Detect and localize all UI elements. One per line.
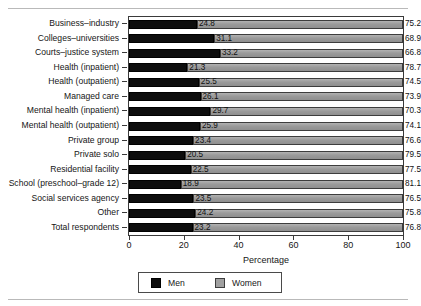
- bar-segment-women: [214, 34, 403, 43]
- bar-segment-men: [129, 136, 193, 145]
- category-label: Colleges–universities: [38, 34, 119, 43]
- bar-segment-women: [195, 209, 403, 218]
- bar-row: 25.974.1: [129, 122, 403, 131]
- bar-row: 26.173.9: [129, 92, 403, 101]
- bar-value-label-women: 75.2: [405, 19, 421, 29]
- bar-segment-men: [129, 151, 185, 160]
- bar-segment-women: [201, 92, 403, 101]
- bar-row: 24.875.2: [129, 20, 403, 29]
- category-label: Total respondents: [51, 223, 119, 232]
- bar-segment-women: [200, 122, 403, 131]
- bar-segment-women: [197, 20, 403, 29]
- bar-value-label-women: 76.5: [405, 194, 421, 204]
- bar-segment-women: [199, 78, 403, 87]
- bar-value-label-women: 76.6: [405, 136, 421, 146]
- category-tick-mark: [122, 96, 127, 97]
- bar-value-label-men: 24.8: [199, 19, 215, 29]
- bar-value-label-men: 23.4: [195, 136, 211, 146]
- category-label: Courts–justice system: [35, 48, 119, 57]
- bar-segment-men: [129, 63, 187, 72]
- value-tick-label: 80: [343, 241, 353, 250]
- category-tick-mark: [122, 81, 127, 82]
- bar-value-label-women: 78.7: [405, 63, 421, 73]
- category-tick-mark: [122, 183, 127, 184]
- category-tick-mark: [122, 110, 127, 111]
- legend-item-men: Men: [151, 277, 185, 289]
- category-label: Mental health (inpatient): [27, 106, 119, 115]
- bar-segment-women: [220, 49, 403, 58]
- bar-segment-women: [193, 136, 403, 145]
- bar-row: 23.576.5: [129, 194, 403, 203]
- bar-value-label-men: 33.2: [222, 48, 238, 58]
- value-tick-label: 0: [126, 241, 131, 250]
- value-tick-label: 100: [395, 241, 410, 250]
- category-label: School (preschool–grade 12): [9, 179, 119, 188]
- category-tick-mark: [122, 227, 127, 228]
- bar-row: 22.577.5: [129, 165, 403, 174]
- bar-segment-men: [129, 209, 195, 218]
- bar-segment-women: [185, 151, 403, 160]
- category-tick-mark: [122, 169, 127, 170]
- bar-segment-men: [129, 122, 200, 131]
- bar-segment-women: [191, 165, 403, 174]
- bar-segment-men: [129, 78, 199, 87]
- legend-swatch-men-icon: [151, 278, 161, 288]
- bar-value-label-men: 23.5: [195, 194, 211, 204]
- bar-segment-men: [129, 92, 201, 101]
- bar-row: 33.266.8: [129, 49, 403, 58]
- bar-value-label-men: 21.3: [189, 63, 205, 73]
- bar-row: 21.378.7: [129, 63, 403, 72]
- bar-segment-women: [187, 63, 403, 72]
- category-label: Health (inpatient): [54, 63, 119, 72]
- category-tick-mark: [122, 52, 127, 53]
- bar-segment-men: [129, 180, 181, 189]
- bar-row: 31.168.9: [129, 34, 403, 43]
- bar-segment-women: [193, 194, 403, 203]
- bar-row: 23.476.6: [129, 136, 403, 145]
- bar-value-label-women: 68.9: [405, 34, 421, 44]
- bar-value-label-men: 25.9: [202, 121, 218, 131]
- legend-item-women: Women: [215, 277, 261, 289]
- bar-value-label-men: 22.5: [193, 165, 209, 175]
- bar-value-label-men: 24.2: [197, 208, 213, 218]
- bar-value-label-women: 81.1: [405, 179, 421, 189]
- bar-value-label-men: 31.1: [216, 34, 232, 44]
- bar-value-label-women: 74.1: [405, 121, 421, 131]
- bar-segment-men: [129, 49, 220, 58]
- category-tick-mark: [122, 23, 127, 24]
- category-label: Other: [98, 208, 120, 217]
- bar-value-label-women: 76.8: [405, 223, 421, 233]
- bar-value-label-women: 74.5: [405, 77, 421, 87]
- value-tick-label: 40: [234, 241, 244, 250]
- category-tick-mark: [122, 212, 127, 213]
- category-label: Managed care: [64, 92, 119, 101]
- bar-row: 29.770.3: [129, 107, 403, 116]
- category-tick-mark: [122, 125, 127, 126]
- bar-segment-men: [129, 34, 214, 43]
- bar-segment-men: [129, 165, 191, 174]
- bar-value-label-women: 73.9: [405, 92, 421, 102]
- category-tick-mark: [122, 154, 127, 155]
- bar-segment-men: [129, 194, 193, 203]
- x-axis-title: Percentage: [128, 255, 404, 265]
- bar-value-label-women: 77.5: [405, 165, 421, 175]
- value-tick-label: 60: [288, 241, 298, 250]
- bar-value-label-men: 26.1: [203, 92, 219, 102]
- value-tick-label: 20: [179, 241, 189, 250]
- category-axis-labels: Business–industryColleges–universitiesCo…: [0, 16, 125, 236]
- bar-segment-men: [129, 20, 197, 29]
- bar-row: 20.579.5: [129, 151, 403, 160]
- category-tick-mark: [122, 140, 127, 141]
- chart-legend: MenWomen: [138, 272, 282, 293]
- bar-segment-women: [193, 223, 403, 232]
- bar-value-label-men: 25.5: [201, 77, 217, 87]
- bar-row: 18.981.1: [129, 180, 403, 189]
- category-tick-mark: [122, 198, 127, 199]
- category-tick-mark: [122, 67, 127, 68]
- category-label: Social services agency: [32, 194, 119, 203]
- category-label: Private solo: [74, 150, 119, 159]
- legend-label: Men: [168, 278, 185, 288]
- category-label: Private group: [68, 136, 119, 145]
- category-label: Business–industry: [49, 19, 119, 28]
